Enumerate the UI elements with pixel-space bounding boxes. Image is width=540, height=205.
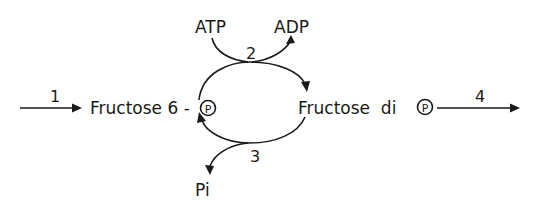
pi-label: Pi	[195, 180, 210, 200]
atp-input-curve	[212, 38, 248, 62]
svg-text:P: P	[205, 103, 212, 116]
step-2-label: 2	[246, 44, 256, 63]
metabolic-diagram: 1 Fructose 6 - P ATP ADP 2 3 Pi Fructose…	[0, 0, 540, 205]
svg-text:P: P	[422, 102, 429, 115]
phosphate-circle-icon: P	[201, 101, 216, 116]
phosphate-circle-icon: P	[418, 100, 433, 115]
step-4-label: 4	[475, 87, 485, 106]
step-1-label: 1	[50, 87, 60, 106]
pi-output-curve	[205, 143, 248, 175]
adp-output-curve	[252, 35, 295, 62]
fructose-6-phosphate-label: Fructose 6 -	[90, 98, 190, 118]
adp-label: ADP	[274, 17, 309, 37]
arc-step-3	[197, 112, 305, 143]
step-3-label: 3	[250, 147, 260, 166]
arc-step-2	[199, 62, 310, 100]
atp-label: ATP	[195, 17, 226, 37]
fructose-diphosphate-label: Fructose di	[298, 98, 396, 118]
